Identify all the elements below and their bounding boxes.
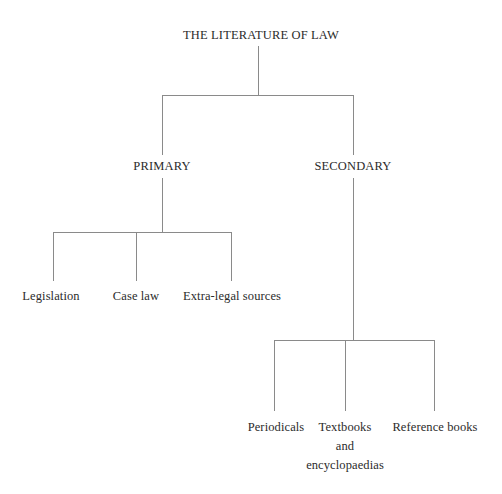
node-textbooks-line-3: encyclopaedias — [290, 456, 400, 475]
node-secondary: SECONDARY — [314, 157, 391, 175]
node-primary: PRIMARY — [133, 157, 190, 175]
node-textbooks-line-1: Textbooks — [290, 418, 400, 437]
tree-diagram: THE LITERATURE OF LAW PRIMARY SECONDARY … — [0, 0, 502, 494]
node-reference-books: Reference books — [392, 418, 477, 436]
node-textbooks-line-2: and — [290, 437, 400, 456]
node-case-law: Case law — [113, 287, 159, 305]
node-extra-legal-sources: Extra-legal sources — [183, 287, 281, 305]
node-root: THE LITERATURE OF LAW — [183, 26, 339, 44]
node-textbooks-and-encyclopaedias: Textbooks and encyclopaedias — [290, 418, 400, 475]
node-legislation: Legislation — [22, 287, 79, 305]
